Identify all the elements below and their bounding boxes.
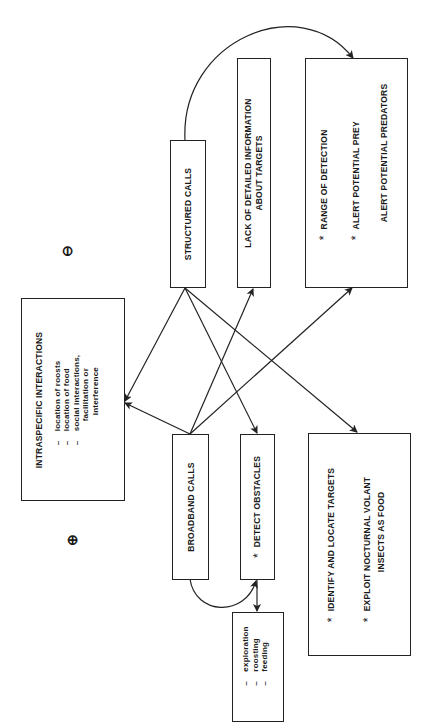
lack-of-info-node: LACK OF DETAILED INFORMATION ABOUT TARGE… bbox=[237, 58, 271, 288]
list-item: –social interactions, bbox=[71, 354, 81, 444]
list-item: *EXPLOIT NOCTURNAL VOLANT bbox=[361, 467, 375, 621]
node-label-line: LACK OF DETAILED INFORMATION bbox=[243, 98, 254, 247]
list-item: *ALERT POTENTIAL PREY bbox=[341, 83, 373, 240]
list-item: –roosting bbox=[250, 627, 260, 686]
negative-effect-symbol: ⊖ bbox=[59, 245, 75, 257]
asterisk-icon: * bbox=[361, 617, 375, 622]
activities-node: –exploration –roosting –feeding bbox=[232, 612, 284, 722]
range-alert-node: *RANGE OF DETECTION *ALERT POTENTIAL PRE… bbox=[305, 58, 408, 288]
asterisk-icon: * bbox=[350, 235, 364, 240]
asterisk-icon: * bbox=[250, 553, 264, 558]
list-item: *RANGE OF DETECTION bbox=[309, 83, 341, 240]
list-item: –exploration bbox=[241, 627, 251, 686]
node-label-line: ABOUT TARGETS bbox=[254, 98, 265, 247]
list-item: *IDENTIFY AND LOCATE TARGETS bbox=[325, 467, 339, 621]
node-label: STRUCTURED CALLS bbox=[183, 168, 194, 260]
positive-effect-symbol: ⊕ bbox=[64, 534, 80, 546]
list-item: –feeding bbox=[260, 627, 270, 686]
list-item: –location of roosts bbox=[52, 354, 62, 444]
structured-calls-node: STRUCTURED CALLS bbox=[170, 140, 206, 288]
asterisk-icon: * bbox=[318, 235, 332, 240]
list-item: interference bbox=[91, 354, 101, 444]
list-item: ALERT POTENTIAL PREDATORS bbox=[373, 83, 396, 240]
asterisk-icon: * bbox=[325, 617, 339, 622]
identify-targets-node: *IDENTIFY AND LOCATE TARGETS *EXPLOIT NO… bbox=[308, 433, 411, 656]
list-item: –location of food bbox=[62, 354, 72, 444]
broadband-calls-node: BROADBAND CALLS bbox=[172, 434, 209, 580]
detect-obstacles-node: *DETECT OBSTACLES bbox=[240, 434, 275, 580]
node-title: INTRASPECIFIC INTERACTIONS bbox=[34, 331, 45, 467]
intraspecific-interactions-node: INTRASPECIFIC INTERACTIONS –location of … bbox=[21, 298, 125, 501]
list-item: facilitation or bbox=[81, 354, 91, 444]
node-label: BROADBAND CALLS bbox=[185, 462, 196, 551]
list-item-cont: INSECTS AS FOOD bbox=[376, 467, 386, 621]
